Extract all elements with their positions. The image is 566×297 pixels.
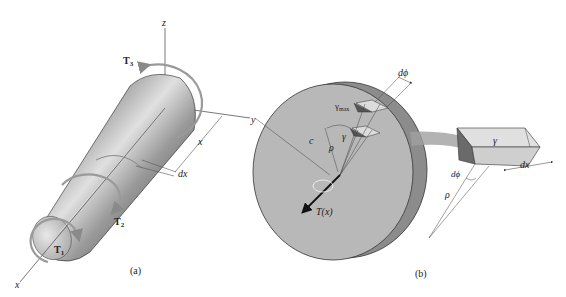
panel-a: z y x x dx T3 T2 T1 (a) <box>14 17 256 290</box>
panel-b: dϕ γmax γ c ρ T(x) γ dx dϕ ρ (b) <box>253 67 552 280</box>
x-axis-label-bottom: x <box>14 279 20 290</box>
caption-a: (a) <box>130 265 141 277</box>
radius-c-label: c <box>309 135 314 146</box>
x-axis-line <box>20 108 165 282</box>
figure-canvas: z y x x dx T3 T2 T1 (a) <box>0 0 566 297</box>
caption-b: (b) <box>415 268 427 280</box>
dx-label-a: dx <box>178 168 188 179</box>
x-axis-label-top: x <box>197 136 203 147</box>
z-axis-label: z <box>161 17 166 28</box>
dphi-label-bottom: dϕ <box>451 169 461 179</box>
internal-torque-label: T(x) <box>316 206 333 218</box>
rho-label-disk: ρ <box>328 142 334 153</box>
torque-t3-label: T3 <box>123 55 134 68</box>
disk-face <box>253 84 413 260</box>
dphi-label-top: dϕ <box>398 67 408 78</box>
y-axis-label: y <box>250 114 256 125</box>
dx-label-b: dx <box>520 159 530 170</box>
rho-label-element: ρ <box>444 189 450 200</box>
torque-t2-label: T2 <box>114 216 125 229</box>
